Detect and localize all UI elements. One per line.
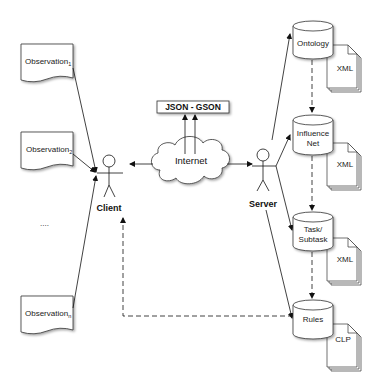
server-to-task-arrow	[276, 166, 292, 230]
influence-net-label-line2: Net	[307, 139, 320, 148]
server-to-ontology-arrow	[272, 34, 290, 140]
json-gson-label: JSON - GSON	[165, 102, 221, 112]
client-actor-icon	[97, 155, 123, 197]
server-actor-icon	[252, 149, 276, 191]
observation-n-label: Observationn	[25, 309, 71, 319]
ontology-doc-label: XML	[337, 64, 354, 73]
observation-2-label: Observation2	[26, 145, 72, 155]
client-label: Client	[96, 203, 121, 213]
task-subtask-label-line1: Task/	[304, 225, 323, 234]
task-subtask-label-line2: Subtask	[299, 235, 329, 244]
rules-doc-label: CLP	[335, 335, 351, 344]
observation-2-arrow	[73, 154, 95, 172]
rules-label: Rules	[303, 315, 323, 324]
rules-to-client-arrow	[123, 218, 293, 316]
influence-net-label-line1: Influence	[297, 129, 330, 138]
ontology-label: Ontology	[297, 39, 329, 48]
internet-label: Internet	[175, 155, 208, 166]
influence-doc-label: XML	[337, 160, 354, 169]
server-label: Server	[249, 199, 278, 209]
server-to-rules-arrow	[266, 210, 292, 318]
task-doc-label: XML	[337, 255, 354, 264]
server-to-influence-arrow	[276, 135, 290, 166]
observation-n-arrow	[73, 176, 96, 308]
architecture-diagram: Observation1 Observation2 .... Observati…	[0, 0, 386, 385]
observation-1-label: Observation1	[25, 57, 71, 67]
ellipsis: ....	[40, 219, 49, 228]
